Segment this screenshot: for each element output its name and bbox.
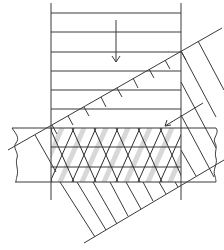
diagram-svg <box>0 0 224 250</box>
diagram-canvas <box>0 0 224 250</box>
down-arrow-icon <box>112 20 120 62</box>
right-break-line <box>214 128 217 182</box>
inclined-arrow-icon <box>165 103 203 126</box>
shaded-lattice <box>20 110 214 200</box>
left-break-line <box>12 128 18 182</box>
